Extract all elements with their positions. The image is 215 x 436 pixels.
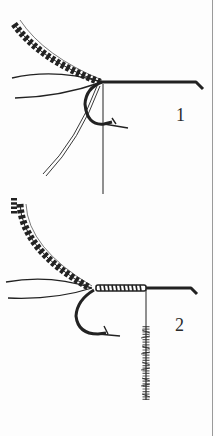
page-edge-divider <box>212 0 213 436</box>
tail-fiber-icon <box>8 288 92 298</box>
hook-shank-icon <box>146 288 197 294</box>
step-number-2: 2 <box>175 316 184 334</box>
illustration-page: 1 2 <box>0 0 215 436</box>
step-1-drawing <box>12 20 203 214</box>
hook-bend-icon <box>85 82 112 124</box>
hook-point-icon <box>98 326 120 336</box>
barred-feather-icon <box>20 204 92 288</box>
hook-shank-icon <box>100 82 203 89</box>
barred-feather-icon <box>14 20 102 82</box>
loose-thread-icon <box>43 86 97 174</box>
thread-wraps-icon <box>96 285 146 291</box>
chenille-icon <box>141 326 150 400</box>
step-number-1: 1 <box>176 106 185 124</box>
fly-tying-illustration <box>0 0 215 436</box>
step-2-drawing <box>6 204 197 400</box>
hook-bend-icon <box>76 290 106 334</box>
